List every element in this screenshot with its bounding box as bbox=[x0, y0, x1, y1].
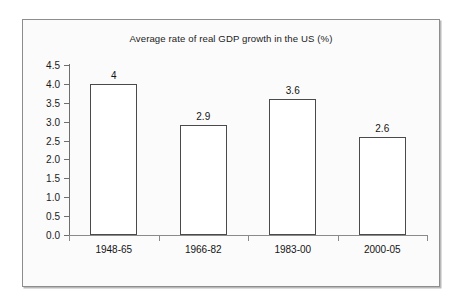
y-axis-tick bbox=[64, 141, 69, 142]
bar-value-label: 4 bbox=[111, 70, 117, 81]
y-axis-tick-label: 3.5 bbox=[30, 97, 60, 108]
chart-title: Average rate of real GDP growth in the U… bbox=[23, 33, 439, 44]
y-axis-tick-label: 2.0 bbox=[30, 154, 60, 165]
y-axis-tick-label: 0.5 bbox=[30, 211, 60, 222]
bar-value-label: 2.9 bbox=[196, 111, 210, 122]
y-axis-tick-label: 4.0 bbox=[30, 78, 60, 89]
x-axis-tick bbox=[248, 236, 249, 241]
x-axis-tick bbox=[69, 236, 70, 241]
x-axis-category-label: 2000-05 bbox=[364, 244, 401, 255]
y-axis-tick-label: 1.0 bbox=[30, 192, 60, 203]
bar-value-label: 2.6 bbox=[375, 123, 389, 134]
y-axis-tick-label: 2.5 bbox=[30, 135, 60, 146]
bar bbox=[359, 137, 406, 235]
y-axis-tick bbox=[64, 216, 69, 217]
y-axis-tick bbox=[64, 178, 69, 179]
bar bbox=[90, 84, 137, 235]
y-axis-tick-label: 1.5 bbox=[30, 173, 60, 184]
y-axis-tick bbox=[64, 197, 69, 198]
bar bbox=[180, 125, 227, 235]
chart-figure-frame: Average rate of real GDP growth in the U… bbox=[22, 19, 440, 287]
y-axis-tick bbox=[64, 122, 69, 123]
y-axis-tick bbox=[64, 65, 69, 66]
x-axis-tick bbox=[159, 236, 160, 241]
x-axis-tick bbox=[427, 236, 428, 241]
bar-value-label: 3.6 bbox=[286, 85, 300, 96]
x-axis-tick bbox=[338, 236, 339, 241]
x-axis-category-label: 1948-65 bbox=[95, 244, 132, 255]
y-axis-tick-label: 3.0 bbox=[30, 116, 60, 127]
y-axis-tick bbox=[64, 159, 69, 160]
y-axis-tick bbox=[64, 103, 69, 104]
y-axis-tick bbox=[64, 84, 69, 85]
x-axis-category-label: 1983-00 bbox=[274, 244, 311, 255]
x-axis-category-label: 1966-82 bbox=[185, 244, 222, 255]
y-axis-tick-label: 0.0 bbox=[30, 230, 60, 241]
y-axis-tick-label: 4.5 bbox=[30, 60, 60, 71]
bar bbox=[269, 99, 316, 235]
y-axis-line bbox=[69, 64, 70, 236]
